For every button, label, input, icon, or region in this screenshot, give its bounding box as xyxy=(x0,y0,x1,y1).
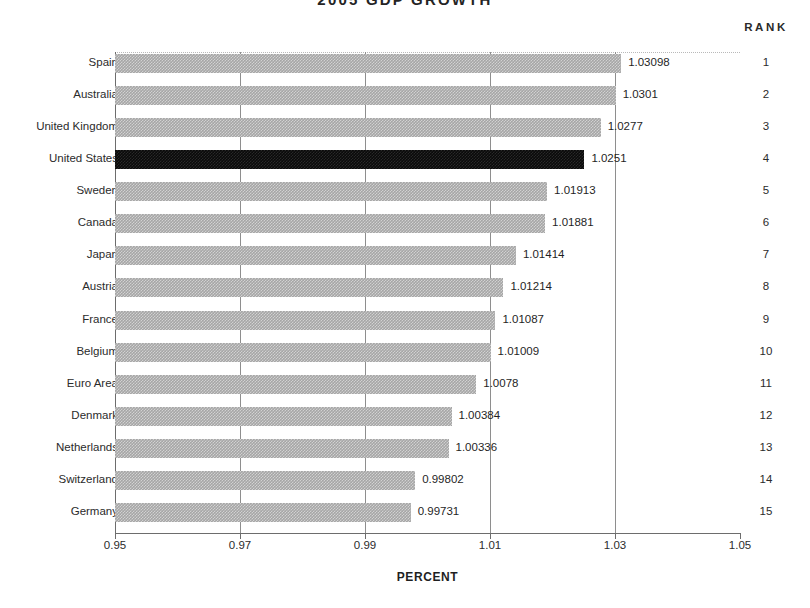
bar-value-label: 1.0078 xyxy=(483,377,518,389)
category-label: Sweden xyxy=(0,184,118,196)
bar-value-label: 0.99731 xyxy=(418,505,460,517)
category-label: Austria xyxy=(0,280,118,292)
category-label: Germany xyxy=(0,505,118,517)
bar-value-label: 0.99802 xyxy=(422,473,464,485)
bar xyxy=(115,278,503,297)
bar-value-label: 1.00336 xyxy=(456,441,498,453)
bar xyxy=(115,182,547,201)
bar-value-label: 1.01009 xyxy=(498,345,540,357)
bar-row: Germany0.9973115 xyxy=(115,501,740,533)
category-label: United Kingdom xyxy=(0,120,118,132)
bar-value-label: 1.01214 xyxy=(510,280,552,292)
rank-value: 10 xyxy=(724,345,808,357)
bar-row: Netherlands1.0033613 xyxy=(115,437,740,469)
bar xyxy=(115,246,516,265)
category-label: Belgium xyxy=(0,345,118,357)
bar xyxy=(115,375,476,394)
bar-row: Japan1.014147 xyxy=(115,244,740,276)
category-label: France xyxy=(0,313,118,325)
bar xyxy=(115,471,415,490)
bar-row: United States1.02514 xyxy=(115,148,740,180)
bar-row: Spain1.030981 xyxy=(115,52,740,84)
rank-value: 5 xyxy=(724,184,808,196)
bar-row: Euro Area1.007811 xyxy=(115,373,740,405)
bar-value-label: 1.00384 xyxy=(459,409,501,421)
bar xyxy=(115,311,495,330)
bar-highlighted xyxy=(115,150,584,169)
category-label: Switzerland xyxy=(0,473,118,485)
bar-value-label: 1.01414 xyxy=(523,248,565,260)
bar-value-label: 1.0277 xyxy=(608,120,643,132)
bar xyxy=(115,54,621,73)
bar-row: France1.010879 xyxy=(115,309,740,341)
bar-row: Austria1.012148 xyxy=(115,276,740,308)
bar-row: Denmark1.0038412 xyxy=(115,405,740,437)
x-tick-label: 1.01 xyxy=(460,539,520,551)
bar xyxy=(115,214,545,233)
bar-value-label: 1.01881 xyxy=(552,216,594,228)
rank-value: 3 xyxy=(724,120,808,132)
x-tick-label: 0.99 xyxy=(335,539,395,551)
rank-value: 6 xyxy=(724,216,808,228)
bar-value-label: 1.0251 xyxy=(591,152,626,164)
category-label: Australia xyxy=(0,88,118,100)
category-label: United States xyxy=(0,152,118,164)
chart-title: 2005 GDP GROWTH xyxy=(0,0,810,8)
rank-value: 7 xyxy=(724,248,808,260)
x-tick-label: 1.03 xyxy=(585,539,645,551)
category-label: Canada xyxy=(0,216,118,228)
bar-row: Australia1.03012 xyxy=(115,84,740,116)
rank-value: 12 xyxy=(724,409,808,421)
gdp-growth-chart: 2005 GDP GROWTH RANK Spain1.030981Austra… xyxy=(0,0,810,608)
rank-value: 9 xyxy=(724,313,808,325)
bar xyxy=(115,118,601,137)
category-label: Spain xyxy=(0,56,118,68)
x-tick-label: 1.05 xyxy=(710,539,770,551)
bar-row: United Kingdom1.02773 xyxy=(115,116,740,148)
bar xyxy=(115,86,616,105)
bar xyxy=(115,343,491,362)
rank-value: 1 xyxy=(724,56,808,68)
rank-value: 15 xyxy=(724,505,808,517)
x-axis-title: PERCENT xyxy=(115,570,740,584)
category-label: Euro Area xyxy=(0,377,118,389)
bar xyxy=(115,439,449,458)
plot-area: Spain1.030981Australia1.03012United King… xyxy=(115,52,740,533)
bar xyxy=(115,503,411,522)
x-tick-label: 0.97 xyxy=(210,539,270,551)
rank-value: 11 xyxy=(724,377,808,389)
plot-bottom-axis xyxy=(115,533,740,534)
rank-value: 14 xyxy=(724,473,808,485)
rank-value: 13 xyxy=(724,441,808,453)
bar-row: Sweden1.019135 xyxy=(115,180,740,212)
bar-value-label: 1.01913 xyxy=(554,184,596,196)
bar xyxy=(115,407,452,426)
rank-value: 2 xyxy=(724,88,808,100)
bar-row: Belgium1.0100910 xyxy=(115,341,740,373)
bar-row: Switzerland0.9980214 xyxy=(115,469,740,501)
x-tick-label: 0.95 xyxy=(85,539,145,551)
bar-row: Canada1.018816 xyxy=(115,212,740,244)
rank-value: 4 xyxy=(724,152,808,164)
category-label: Japan xyxy=(0,248,118,260)
category-label: Denmark xyxy=(0,409,118,421)
rank-value: 8 xyxy=(724,280,808,292)
rank-column-header: RANK xyxy=(724,21,808,33)
bar-value-label: 1.0301 xyxy=(623,88,658,100)
bar-value-label: 1.01087 xyxy=(502,313,544,325)
bar-value-label: 1.03098 xyxy=(628,56,670,68)
category-label: Netherlands xyxy=(0,441,118,453)
